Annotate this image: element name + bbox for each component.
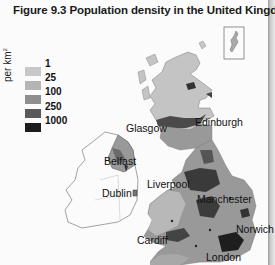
- legend-swatch-25: [25, 81, 41, 90]
- legend-label-250: 250: [45, 101, 62, 112]
- city-label-manchester: Manchester: [197, 193, 252, 205]
- city-label-liverpool: Liverpool: [147, 178, 190, 190]
- city-label-dublin: Dublin: [102, 187, 132, 199]
- scotland: [138, 52, 214, 150]
- city-label-edinburgh: Edinburgh: [195, 116, 243, 128]
- city-label-london: London: [206, 251, 241, 263]
- legend-label-100: 100: [45, 86, 62, 97]
- legend-label-1000: 1000: [45, 115, 67, 126]
- city-label-cardiff: Cardiff: [137, 234, 168, 246]
- legend-swatch-100: [25, 95, 41, 104]
- legend-label-1: 1: [45, 58, 51, 69]
- city-label-belfast: Belfast: [104, 155, 136, 167]
- legend-swatch-1000: [25, 123, 41, 132]
- ireland: [65, 132, 138, 228]
- legend-unit: per km2: [2, 48, 13, 82]
- legend-swatch-250: [25, 109, 41, 118]
- city-label-glasgow: Glasgow: [126, 122, 167, 134]
- shetland-inset: [224, 27, 244, 59]
- city-label-norwich: Norwich: [236, 223, 274, 235]
- legend-swatch-1: [25, 67, 41, 76]
- legend-label-25: 25: [45, 72, 56, 83]
- orkney: [199, 41, 206, 49]
